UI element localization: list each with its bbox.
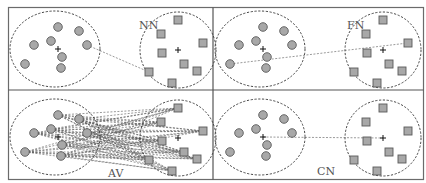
circle-point [57, 152, 66, 161]
circle-point [288, 129, 297, 138]
links-nn [87, 45, 149, 72]
square-point [168, 167, 176, 175]
circle-point [280, 27, 289, 36]
diagram-canvas: NNFNAVCN [0, 0, 426, 183]
square-point [373, 79, 381, 87]
circle-point [83, 41, 92, 50]
square-point [404, 127, 412, 135]
square-point [363, 49, 371, 57]
square-point [398, 155, 406, 163]
square-point [145, 68, 153, 76]
square-point [199, 39, 207, 47]
panel-label-av: AV [107, 167, 124, 180]
square-point [404, 39, 412, 47]
circle-point [259, 111, 268, 120]
circle-point [259, 23, 268, 32]
square-point [158, 49, 166, 57]
circle-point [252, 125, 261, 134]
link-line [79, 119, 161, 122]
circle-point [54, 23, 63, 32]
panel-label-cn: CN [317, 165, 335, 178]
links-fn [230, 43, 408, 64]
square-point [350, 156, 358, 164]
square-point [157, 118, 165, 126]
circle-point [58, 53, 67, 62]
square-point [350, 68, 358, 76]
circle-point [83, 129, 92, 138]
circle-point [47, 37, 56, 46]
square-point [385, 60, 393, 68]
square-point [398, 67, 406, 75]
square-point [158, 137, 166, 145]
panel-label-fn: FN [347, 19, 365, 32]
square-point [385, 148, 393, 156]
circle-point [263, 141, 272, 150]
square-point [168, 79, 176, 87]
square-point [199, 127, 207, 135]
circle-point [288, 41, 297, 50]
panel-av: AV [10, 99, 216, 180]
square-point [180, 60, 188, 68]
link-line [87, 45, 149, 72]
circle-point [21, 60, 30, 69]
square-point [174, 104, 182, 112]
square-point [373, 167, 381, 175]
circle-point [262, 152, 271, 161]
square-point [193, 67, 201, 75]
circle-point [263, 53, 272, 62]
circle-point [226, 148, 235, 157]
square-point [379, 16, 387, 24]
circle-point [235, 41, 244, 50]
square-point [379, 104, 387, 112]
circle-point [262, 64, 271, 73]
centroid-plus-icon [55, 46, 61, 52]
square-point [145, 156, 153, 164]
circle-point [75, 27, 84, 36]
panel-nn: NN [10, 11, 216, 88]
square-point [174, 16, 182, 24]
square-point [363, 137, 371, 145]
circle-point [235, 129, 244, 138]
circle-point [75, 115, 84, 124]
circle-point [226, 60, 235, 69]
circle-point [47, 125, 56, 134]
panels-layer: NNFNAVCN [10, 11, 421, 180]
circle-point [30, 129, 39, 138]
centroid-plus-icon [260, 134, 266, 140]
circle-point [57, 64, 66, 73]
circle-point [280, 115, 289, 124]
circle-point [21, 148, 30, 157]
circle-point [30, 41, 39, 50]
panel-fn: FN [215, 11, 421, 88]
centroid-plus-icon [380, 135, 386, 141]
link-line [230, 43, 408, 64]
circle-point [58, 141, 67, 150]
links-av [25, 108, 203, 171]
centroid-plus-icon [175, 47, 181, 53]
square-point [193, 155, 201, 163]
circle-point [252, 37, 261, 46]
panel-label-nn: NN [139, 19, 159, 32]
centroid-plus-icon [260, 46, 266, 52]
centroid-plus-icon [380, 47, 386, 53]
linkage-diagram: NNFNAVCN [0, 0, 426, 183]
circle-point [54, 111, 63, 120]
panel-cn: CN [215, 99, 421, 178]
square-point [180, 148, 188, 156]
square-point [362, 118, 370, 126]
